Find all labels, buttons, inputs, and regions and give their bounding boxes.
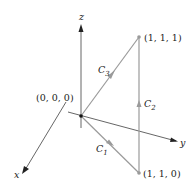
curve-c2 <box>137 37 142 173</box>
point-1-1-0 <box>137 171 141 175</box>
y-axis-arrowhead-icon <box>170 138 178 143</box>
z-axis-label: z <box>78 11 85 22</box>
curve-c3 <box>81 37 139 116</box>
origin-label: (0, 0, 0) <box>36 92 74 103</box>
x-axis-label: x <box>14 169 20 180</box>
point-1-1-1 <box>137 35 141 39</box>
curve-c1 <box>81 116 139 173</box>
z-axis <box>79 24 84 128</box>
c2-label: C2 <box>144 98 156 112</box>
c1-label: C1 <box>96 143 108 157</box>
c3-label: C3 <box>98 64 110 78</box>
diagram-svg: z y x (0, 0 <box>0 0 195 187</box>
y-axis <box>68 112 178 142</box>
c2-direction-arrow-icon <box>137 100 142 107</box>
point-1-1-0-label: (1, 1, 0) <box>143 168 181 179</box>
x-axis <box>22 102 66 174</box>
z-axis-arrowhead-icon <box>79 24 84 32</box>
point-1-1-1-label: (1, 1, 1) <box>144 32 182 43</box>
diagram-canvas: z y x (0, 0 <box>0 0 195 187</box>
y-axis-label: y <box>179 137 186 148</box>
x-axis-arrowhead-icon <box>22 166 29 174</box>
origin-point <box>79 114 83 118</box>
